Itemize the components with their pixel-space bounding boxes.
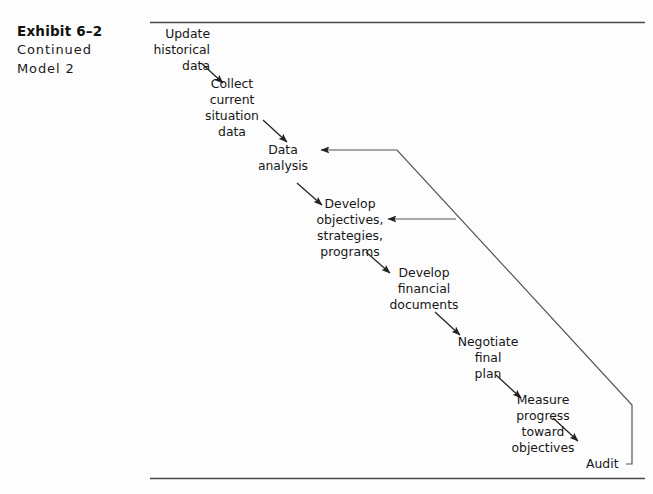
node-line: financial bbox=[385, 281, 463, 297]
exhibit-caption: Exhibit 6–2 Continued Model 2 bbox=[17, 22, 142, 78]
node-line: Collect bbox=[196, 76, 268, 92]
node-develop-objectives-strategies-programs: Develop objectives, strategies, programs bbox=[312, 196, 388, 261]
node-measure-progress-toward-objectives: Measure progress toward objectives bbox=[505, 392, 581, 457]
exhibit-page: · · · · · · · · Exhibit 6–2 Continued Mo… bbox=[0, 0, 653, 494]
node-line: Update bbox=[140, 26, 210, 42]
node-line: objectives bbox=[505, 440, 581, 456]
node-line: strategies, bbox=[312, 228, 388, 244]
node-line: Negotiate bbox=[452, 334, 524, 350]
node-line: analysis bbox=[251, 158, 315, 174]
node-line: Develop bbox=[312, 196, 388, 212]
exhibit-subtitle-continued: Continued bbox=[17, 41, 142, 59]
exhibit-subtitle-model: Model 2 bbox=[17, 60, 142, 78]
scan-bleed-artifact: · · · · · · · · bbox=[360, 2, 590, 12]
node-audit: Audit bbox=[586, 456, 634, 472]
arrow-financial-documents-to-negotiate bbox=[435, 312, 460, 335]
node-collect-current-situation-data: Collect current situation data bbox=[196, 76, 268, 141]
node-line: plan bbox=[452, 366, 524, 382]
node-line: historical bbox=[140, 42, 210, 58]
node-line: Measure bbox=[505, 392, 581, 408]
node-line: Develop bbox=[385, 265, 463, 281]
node-line: Data bbox=[251, 142, 315, 158]
node-develop-financial-documents: Develop financial documents bbox=[385, 265, 463, 313]
node-negotiate-final-plan: Negotiate final plan bbox=[452, 334, 524, 382]
node-line: programs bbox=[312, 244, 388, 260]
node-line: current bbox=[196, 92, 268, 108]
node-update-historical-data: Update historical data bbox=[140, 26, 210, 74]
node-line: data bbox=[196, 124, 268, 140]
node-line: situation bbox=[196, 108, 268, 124]
node-line: Audit bbox=[586, 456, 634, 472]
node-line: data bbox=[140, 58, 210, 74]
node-line: toward bbox=[505, 424, 581, 440]
node-data-analysis: Data analysis bbox=[251, 142, 315, 174]
node-line: objectives, bbox=[312, 212, 388, 228]
node-line: progress bbox=[505, 408, 581, 424]
node-line: final bbox=[452, 350, 524, 366]
node-line: documents bbox=[385, 297, 463, 313]
exhibit-title: Exhibit 6–2 bbox=[17, 22, 142, 41]
